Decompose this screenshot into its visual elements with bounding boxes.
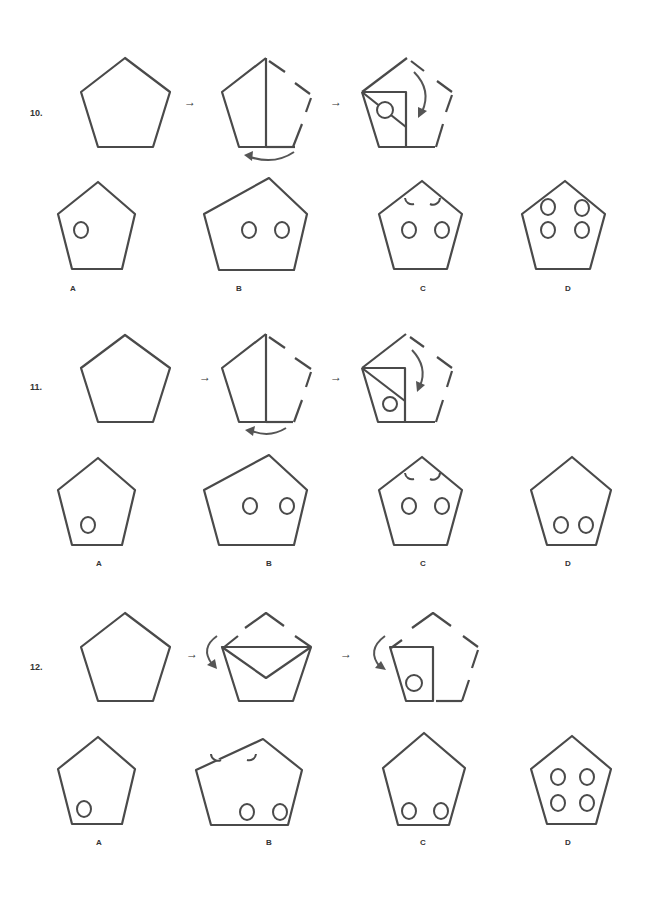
p10-option-b-icon (204, 178, 307, 270)
p12-option-d-icon (531, 736, 611, 824)
p10-step1-pentagon-icon (81, 58, 170, 147)
p12-option-b-icon (196, 739, 302, 825)
p10-option-a-icon (58, 182, 135, 269)
p12-step3-fold-hole-icon (374, 613, 478, 701)
p12-option-a-icon (58, 737, 135, 824)
p11-step1-pentagon-icon (81, 335, 170, 422)
p12-step1-pentagon-icon (81, 613, 170, 701)
p11-step2-fold-icon (222, 334, 311, 436)
p11-step3-fold-hole-icon (362, 334, 452, 422)
p10-option-c-icon (379, 181, 462, 269)
p12-option-c-icon (383, 733, 465, 825)
p10-step3-fold-hole-icon (362, 58, 452, 147)
p11-option-a-icon (58, 458, 135, 545)
p11-option-d-icon (531, 457, 611, 545)
p11-option-b-icon (204, 455, 307, 545)
p12-step2-fold-icon (207, 613, 311, 701)
p11-option-c-icon (379, 457, 462, 545)
p10-option-d-icon (522, 181, 605, 269)
figures-canvas (0, 0, 653, 897)
p10-step2-fold-icon (222, 58, 311, 161)
